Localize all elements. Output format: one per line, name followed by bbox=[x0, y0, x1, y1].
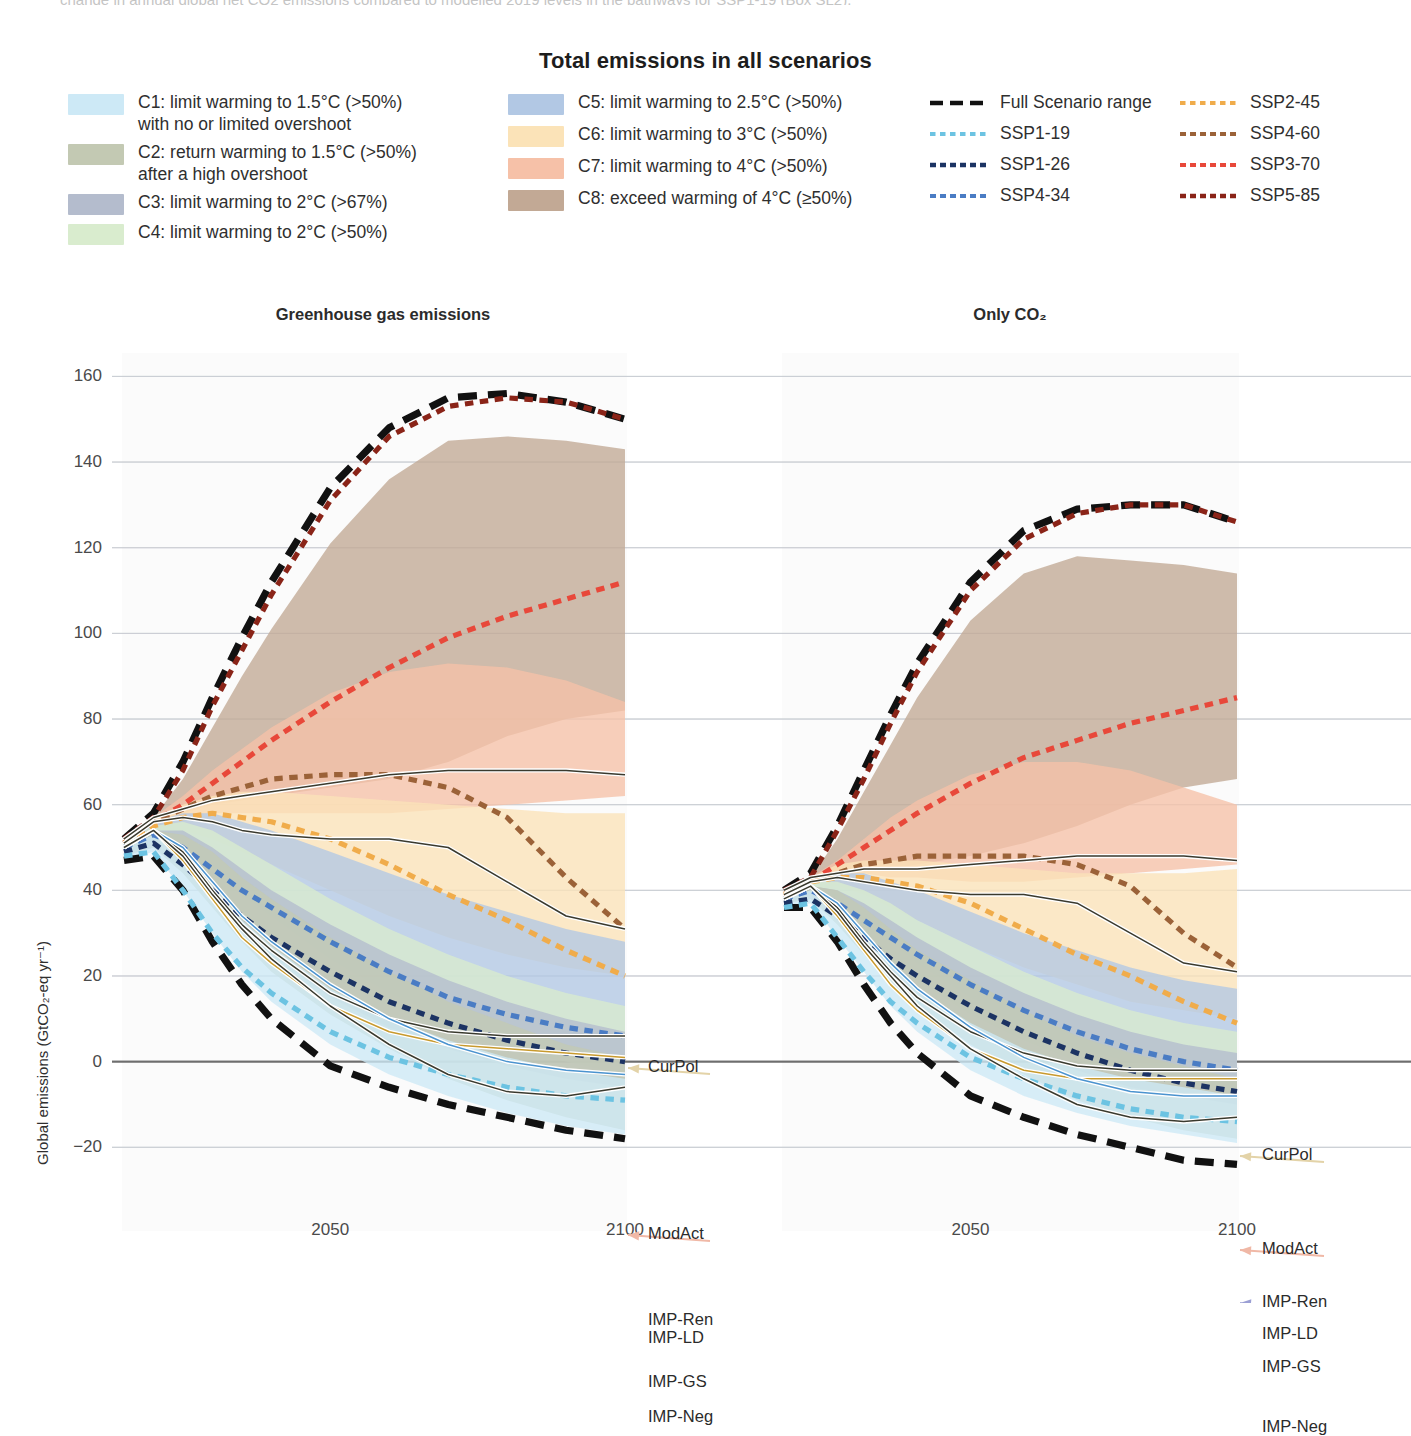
annotation-label-modact: ModAct bbox=[1262, 1239, 1318, 1258]
legend-item-c5[interactable]: C5: limit warming to 2.5°C (>50%) bbox=[508, 92, 908, 115]
legend-label-c8: C8: exceed warming of 4°C (≥50%) bbox=[578, 188, 852, 210]
y-tick-label: 160 bbox=[34, 366, 102, 386]
y-tick-label: 80 bbox=[34, 709, 102, 729]
legend-item-c3[interactable]: C3: limit warming to 2°C (>67%) bbox=[68, 192, 478, 215]
clipped-caption-text: change in annual global net CO2 emission… bbox=[60, 0, 1380, 5]
legend-swatch-c7 bbox=[508, 158, 564, 179]
plot-svg bbox=[0, 300, 1411, 1303]
y-tick-label: 120 bbox=[34, 538, 102, 558]
legend-label-ssp3-70: SSP3-70 bbox=[1250, 154, 1320, 176]
annotation-label-imp-gs: IMP-GS bbox=[648, 1372, 707, 1391]
y-tick-label: 60 bbox=[34, 795, 102, 815]
x-tick-label: 2050 bbox=[290, 1220, 370, 1240]
legend-swatch-c8 bbox=[508, 190, 564, 211]
legend-item-c7[interactable]: C7: limit warming to 4°C (>50%) bbox=[508, 156, 908, 179]
legend-column-1: C1: limit warming to 1.5°C (>50%) with n… bbox=[68, 92, 478, 250]
legend-swatch-c3 bbox=[68, 194, 124, 215]
legend-line-ssp5-85 bbox=[1180, 186, 1236, 207]
annotation-label-imp-neg: IMP-Neg bbox=[1262, 1417, 1327, 1436]
y-tick-label: 40 bbox=[34, 880, 102, 900]
legend-swatch-c4 bbox=[68, 224, 124, 245]
legend-label-c3: C3: limit warming to 2°C (>67%) bbox=[138, 192, 388, 214]
legend-label-ssp1-19: SSP1-19 bbox=[1000, 123, 1070, 145]
legend-swatch-c1 bbox=[68, 94, 124, 115]
legend-label-ssp1-26: SSP1-26 bbox=[1000, 154, 1070, 176]
annotation-label-imp-gs: IMP-GS bbox=[1262, 1357, 1321, 1376]
y-tick-label: −20 bbox=[34, 1137, 102, 1157]
legend-item-ssp2-45[interactable]: SSP2-45 bbox=[1180, 92, 1400, 114]
legend-label-c5: C5: limit warming to 2.5°C (>50%) bbox=[578, 92, 842, 114]
x-tick-label: 2100 bbox=[1197, 1220, 1277, 1240]
legend-item-ssp5-85[interactable]: SSP5-85 bbox=[1180, 185, 1400, 207]
legend-line-ssp4-34 bbox=[930, 186, 986, 207]
x-tick-label: 2050 bbox=[931, 1220, 1011, 1240]
legend-label-c7: C7: limit warming to 4°C (>50%) bbox=[578, 156, 828, 178]
legend-item-c4[interactable]: C4: limit warming to 2°C (>50%) bbox=[68, 222, 478, 245]
annotation-label-modact: ModAct bbox=[648, 1224, 704, 1243]
legend-column-3: Full Scenario range SSP1-19 SSP1-26 SSP4… bbox=[930, 92, 1160, 212]
legend-item-ssp4-34[interactable]: SSP4-34 bbox=[930, 185, 1160, 207]
chart-area: Greenhouse gas emissions Only CO₂ Global… bbox=[0, 300, 1411, 1303]
legend-label-full-scenario-range: Full Scenario range bbox=[1000, 92, 1152, 114]
legend-line-ssp1-26 bbox=[930, 155, 986, 176]
annotation-label-imp-ren: IMP-Ren bbox=[1262, 1292, 1327, 1311]
legend-swatch-c6 bbox=[508, 126, 564, 147]
y-tick-label: 20 bbox=[34, 966, 102, 986]
legend-label-c4: C4: limit warming to 2°C (>50%) bbox=[138, 222, 388, 244]
legend-column-2: C5: limit warming to 2.5°C (>50%) C6: li… bbox=[508, 92, 908, 216]
annotation-label-imp-ld: IMP-LD bbox=[648, 1328, 704, 1347]
legend-item-c6[interactable]: C6: limit warming to 3°C (>50%) bbox=[508, 124, 908, 147]
annotation-label-imp-ren: IMP-Ren bbox=[648, 1310, 713, 1329]
legend-item-c8[interactable]: C8: exceed warming of 4°C (≥50%) bbox=[508, 188, 908, 211]
legend-line-ssp3-70 bbox=[1180, 155, 1236, 176]
annotation-label-imp-neg: IMP-Neg bbox=[648, 1407, 713, 1426]
annotation-label-curpol: CurPol bbox=[648, 1057, 698, 1076]
legend-swatch-c2 bbox=[68, 144, 124, 165]
legend-label-ssp2-45: SSP2-45 bbox=[1250, 92, 1320, 114]
y-tick-label: 100 bbox=[34, 623, 102, 643]
panel-title-ghg: Greenhouse gas emissions bbox=[118, 305, 648, 324]
legend-label-ssp5-85: SSP5-85 bbox=[1250, 185, 1320, 207]
annotation-label-curpol: CurPol bbox=[1262, 1145, 1312, 1164]
legend-item-ssp1-19[interactable]: SSP1-19 bbox=[930, 123, 1160, 145]
page-title: Total emissions in all scenarios bbox=[0, 48, 1411, 74]
legend-label-c6: C6: limit warming to 3°C (>50%) bbox=[578, 124, 828, 146]
legend: C1: limit warming to 1.5°C (>50%) with n… bbox=[0, 92, 1411, 272]
legend-line-full-scenario-range bbox=[930, 93, 986, 114]
legend-line-ssp1-19 bbox=[930, 124, 986, 145]
y-tick-label: 140 bbox=[34, 452, 102, 472]
legend-line-ssp4-60 bbox=[1180, 124, 1236, 145]
panel-title-co2: Only CO₂ bbox=[780, 305, 1240, 324]
legend-item-c2[interactable]: C2: return warming to 1.5°C (>50%) after… bbox=[68, 142, 478, 185]
legend-label-c1: C1: limit warming to 1.5°C (>50%) with n… bbox=[138, 92, 402, 135]
legend-item-full-scenario-range[interactable]: Full Scenario range bbox=[930, 92, 1160, 114]
legend-column-4: SSP2-45 SSP4-60 SSP3-70 SSP5-85 bbox=[1180, 92, 1400, 212]
legend-line-ssp2-45 bbox=[1180, 93, 1236, 114]
legend-item-ssp4-60[interactable]: SSP4-60 bbox=[1180, 123, 1400, 145]
legend-label-ssp4-34: SSP4-34 bbox=[1000, 185, 1070, 207]
annotation-label-imp-ld: IMP-LD bbox=[1262, 1324, 1318, 1343]
legend-item-c1[interactable]: C1: limit warming to 1.5°C (>50%) with n… bbox=[68, 92, 478, 135]
legend-label-ssp4-60: SSP4-60 bbox=[1250, 123, 1320, 145]
legend-item-ssp3-70[interactable]: SSP3-70 bbox=[1180, 154, 1400, 176]
legend-item-ssp1-26[interactable]: SSP1-26 bbox=[930, 154, 1160, 176]
legend-swatch-c5 bbox=[508, 94, 564, 115]
y-tick-label: 0 bbox=[34, 1052, 102, 1072]
legend-label-c2: C2: return warming to 1.5°C (>50%) after… bbox=[138, 142, 417, 185]
